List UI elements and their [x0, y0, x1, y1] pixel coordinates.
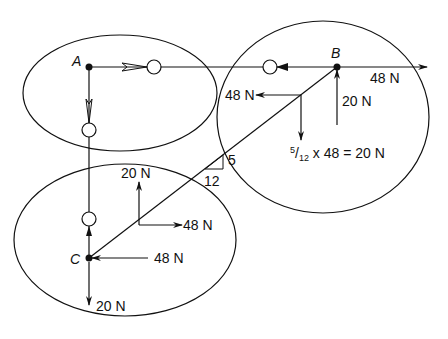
joint-a-boundary	[23, 35, 217, 151]
b-reaction-vertical-label: 20 N	[342, 93, 372, 109]
joint-a-label: A	[71, 53, 81, 69]
slope-triangle	[205, 155, 223, 169]
c-reaction-vertical-label: 20 N	[96, 298, 126, 314]
mid-horizontal-component-label: 48 N	[183, 217, 213, 233]
joint-b-label: B	[331, 45, 340, 61]
diagram-canvas: A B C 48 N 20 N 48 N 5/12 x 48 = 20 N 5 …	[0, 0, 448, 339]
zero-force-marker-ab-b	[263, 60, 277, 74]
zero-force-marker-ab-a	[147, 60, 161, 74]
joint-c-dot	[86, 255, 93, 262]
truss-diagram: A B C 48 N 20 N 48 N 5/12 x 48 = 20 N 5 …	[0, 0, 448, 339]
b-applied-force-label: 48 N	[370, 70, 400, 86]
joint-a-dot	[86, 64, 93, 71]
arrow-icon	[86, 226, 92, 236]
slope-rise-label: 5	[228, 152, 236, 168]
c-reaction-horizontal-label: 48 N	[154, 250, 184, 266]
slope-run-label: 12	[204, 173, 220, 189]
mid-vertical-component-label: 20 N	[121, 165, 151, 181]
joint-c-boundary	[14, 164, 236, 316]
zero-force-marker-ac-a	[82, 123, 96, 137]
joint-c-label: C	[70, 251, 81, 267]
joint-b-boundary	[217, 21, 429, 213]
zero-force-marker-ac-c	[82, 212, 96, 226]
arrow-icon	[276, 63, 288, 71]
bc-horizontal-component-label: 48 N	[225, 87, 255, 103]
fraction-denominator: 12	[299, 153, 309, 163]
fraction-rest: x 48 = 20 N	[309, 145, 385, 161]
bc-vertical-component-label: 5/12 x 48 = 20 N	[290, 145, 385, 163]
